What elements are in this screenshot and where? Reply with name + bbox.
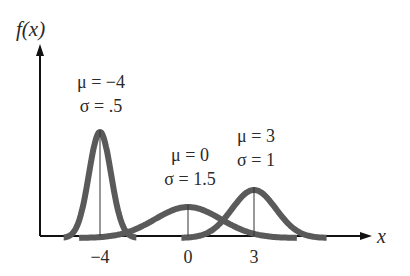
y-axis-label: f(x)	[16, 17, 45, 41]
y-axis-arrow-icon	[36, 44, 44, 56]
x-axis-label: x	[376, 225, 386, 247]
tick-minus-4: −4	[90, 247, 109, 267]
curve3-sigma-label: σ = 1	[237, 150, 275, 170]
curve2-sigma-label: σ = 1.5	[164, 169, 215, 189]
curve1-mu-label: μ = −4	[77, 72, 125, 92]
curve3-mu-label: μ = 3	[237, 126, 275, 146]
curve1-sigma-label: σ = .5	[80, 96, 122, 116]
tick-0: 0	[184, 247, 193, 267]
curve2-mu-label: μ = 0	[171, 145, 209, 165]
tick-3: 3	[250, 247, 259, 267]
x-axis-arrow-icon	[360, 232, 372, 240]
normal-distributions-diagram: f(x) x −4 0 3 μ = −4 σ = .5 μ = 0 σ = 1.…	[0, 0, 410, 276]
